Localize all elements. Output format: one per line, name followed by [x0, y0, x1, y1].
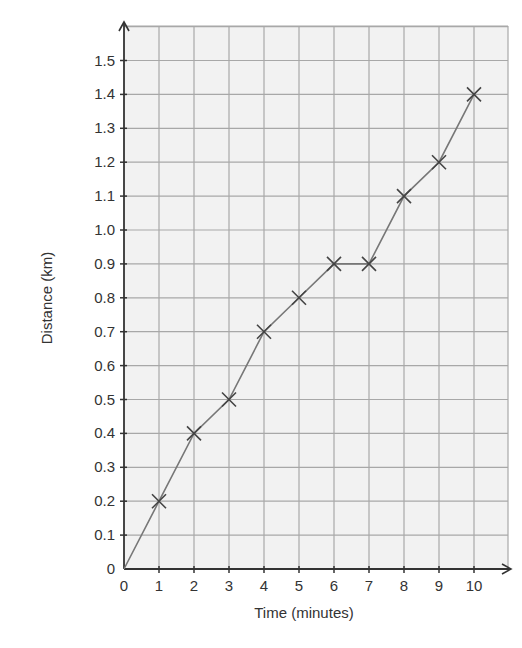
y-tick-label: 0.7 — [94, 323, 115, 340]
distance-time-chart: 012345678910 00.10.20.30.40.50.60.70.80.… — [0, 0, 522, 648]
x-tick-label: 8 — [400, 577, 408, 594]
y-tick-label: 1.0 — [94, 221, 115, 238]
y-tick-label: 1.5 — [94, 52, 115, 69]
x-tick-label: 10 — [466, 577, 483, 594]
x-tick-label: 6 — [330, 577, 338, 594]
x-tick-label: 0 — [120, 577, 128, 594]
y-tick-label: 0.6 — [94, 357, 115, 374]
x-axis-title: Time (minutes) — [254, 604, 353, 621]
y-tick-label: 0.8 — [94, 289, 115, 306]
y-tick-label: 1.1 — [94, 187, 115, 204]
y-tick-label: 0.4 — [94, 424, 115, 441]
x-tick-label: 5 — [295, 577, 303, 594]
y-tick-label: 0 — [107, 560, 115, 577]
y-tick-labels: 00.10.20.30.40.50.60.70.80.91.01.11.21.3… — [94, 52, 115, 578]
x-tick-label: 4 — [260, 577, 268, 594]
x-tick-label: 3 — [225, 577, 233, 594]
x-tick-label: 9 — [435, 577, 443, 594]
y-tick-label: 0.1 — [94, 526, 115, 543]
x-tick-label: 7 — [365, 577, 373, 594]
y-axis-title: Distance (km) — [38, 252, 55, 345]
y-tick-label: 0.3 — [94, 458, 115, 475]
y-tick-label: 0.5 — [94, 391, 115, 408]
y-tick-label: 1.3 — [94, 119, 115, 136]
x-tick-labels: 012345678910 — [120, 577, 483, 594]
y-tick-label: 1.4 — [94, 85, 115, 102]
x-tick-label: 2 — [190, 577, 198, 594]
y-tick-label: 0.9 — [94, 255, 115, 272]
y-tick-label: 1.2 — [94, 153, 115, 170]
x-tick-label: 1 — [155, 577, 163, 594]
y-tick-label: 0.2 — [94, 492, 115, 509]
